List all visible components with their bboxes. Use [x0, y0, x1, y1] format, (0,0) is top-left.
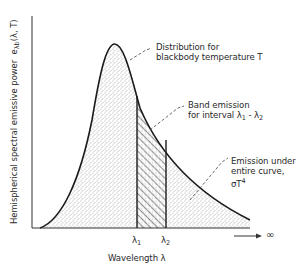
y-axis-label: Hemispherical spectral emissive power eλ…: [9, 19, 21, 224]
band-hatch: [137, 0, 166, 228]
annotation-distribution: Distribution for blackbody temperature T: [156, 42, 263, 62]
leader-band: [150, 106, 184, 130]
x-axis-label: Wavelength λ: [108, 253, 166, 263]
annotation-total-emission: Emission under entire curve, σT4: [231, 156, 296, 189]
annotation-band-emission: Band emission for interval λ1 - λ2: [188, 100, 263, 123]
tick-lambda2: λ2: [161, 235, 170, 248]
leader-distribution: [130, 48, 152, 60]
tick-lambda1: λ1: [132, 235, 141, 248]
infinity-symbol: ∞: [266, 230, 274, 240]
blackbody-diagram: [0, 0, 304, 267]
arrow-head-icon: [256, 234, 262, 239]
